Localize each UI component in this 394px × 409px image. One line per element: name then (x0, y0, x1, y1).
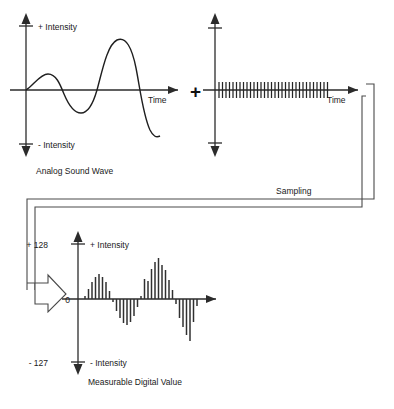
plus-operator-symbol: + (190, 81, 201, 102)
sampling-flow-connector: Sampling (27, 84, 374, 312)
digital-negative-intensity-label: - Intensity (90, 358, 128, 368)
connector-inner-edge (35, 96, 366, 290)
diagram-canvas: + Intensity - Intensity Time Analog Soun… (0, 0, 394, 409)
sampling-diagram-svg: + Intensity - Intensity Time Analog Soun… (0, 0, 394, 409)
sampling-time-axis-label: Time (327, 95, 346, 105)
sampling-flow-label: Sampling (276, 186, 312, 196)
analog-y-axis-arrow-down (22, 146, 31, 157)
digital-value-label-minus127: - 127 (29, 358, 49, 368)
digital-positive-intensity-label: + Intensity (90, 240, 130, 250)
sampling-impulse-panel: Time (203, 13, 358, 157)
connector-outer-edge (27, 84, 374, 290)
analog-panel-caption: Analog Sound Wave (36, 166, 113, 176)
digital-value-label-128: + 128 (26, 240, 48, 250)
sampling-y-axis-arrow-up (211, 13, 220, 24)
analog-y-axis-arrow-up (22, 13, 31, 24)
digital-value-label-zero: 0 (65, 295, 70, 305)
analog-waveform-curve (26, 39, 160, 137)
digital-value-panel: + 128 + Intensity 0 - 127 - Intensity Me… (26, 231, 216, 387)
analog-negative-intensity-label: - Intensity (38, 140, 76, 150)
digital-y-axis-arrow-up (74, 231, 83, 242)
digital-y-axis-arrow-down (74, 364, 83, 375)
analog-positive-intensity-label: + Intensity (38, 22, 78, 32)
analog-time-axis-label: Time (148, 95, 167, 105)
analog-sound-wave-panel: + Intensity - Intensity Time Analog Soun… (10, 13, 178, 176)
digital-panel-caption: Measurable Digital Value (88, 377, 182, 387)
sampling-y-axis-arrow-down (211, 146, 220, 157)
flow-block-arrow-icon (27, 275, 66, 312)
